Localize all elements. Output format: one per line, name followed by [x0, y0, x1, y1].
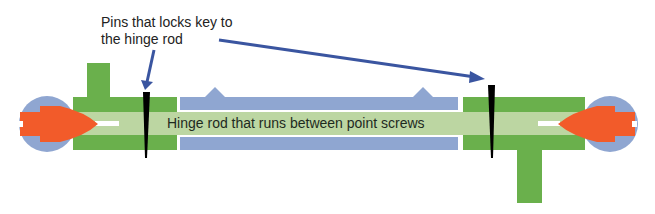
right-bore — [538, 121, 560, 126]
hinge-rod-label: Hinge rod that runs between point screws — [167, 115, 425, 132]
callout-line-2: the hinge rod — [101, 31, 341, 48]
arrow-to-left-pin — [141, 50, 154, 90]
callout-line-1: Pins that locks key to — [101, 14, 341, 31]
left-knuckle — [73, 63, 177, 150]
pins-callout-label: Pins that locks key to the hinge rod — [101, 14, 341, 48]
left-bore — [95, 121, 119, 126]
